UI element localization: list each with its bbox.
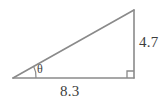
hypotenuse-line (13, 10, 134, 78)
angle-theta-label: θ (37, 63, 43, 75)
right-angle-marker-icon (127, 71, 134, 78)
horizontal-leg-label: 8.3 (60, 84, 79, 99)
triangle-figure: 4.7 8.3 θ (0, 0, 163, 99)
vertical-leg-label: 4.7 (139, 35, 158, 50)
angle-arc-icon (34, 66, 37, 78)
